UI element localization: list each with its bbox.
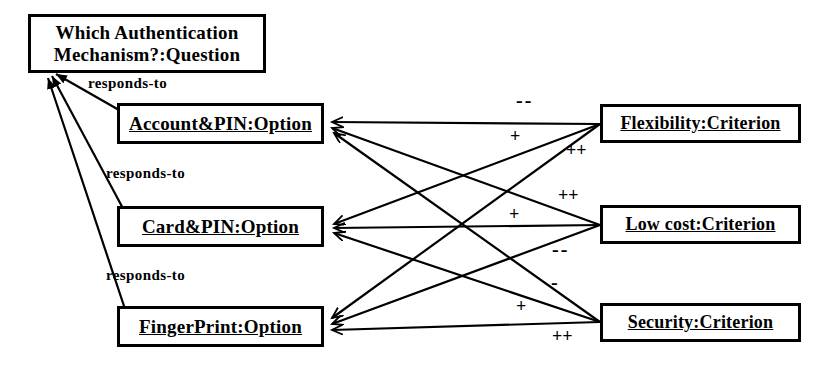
node-criterion-security[interactable]: Security:Criterion <box>600 303 801 342</box>
node-question[interactable]: Which Authentication Mechanism?:Question <box>28 14 266 73</box>
node-criterion-lowcost[interactable]: Low cost:Criterion <box>600 205 801 244</box>
contribution-label-lowcost-to-card: + <box>509 205 519 223</box>
edge-flexibility-to-fingerprint <box>332 124 600 318</box>
contribution-label-lowcost-to-account: ++ <box>558 186 579 204</box>
contribution-label-flex-to-finger: ++ <box>566 141 587 159</box>
edge-flexibility-to-card-pin <box>334 124 600 224</box>
node-option-card-pin[interactable]: Card&PIN:Option <box>117 206 324 247</box>
contribution-edges <box>332 122 600 330</box>
assoc-label-responds-to-2: responds-to <box>106 166 185 181</box>
node-option-fingerprint-label: FingerPrint:Option <box>139 316 302 337</box>
edge-card-pin-to-question <box>52 76 126 214</box>
contribution-label-lowcost-to-finger: -- <box>552 239 569 259</box>
node-option-fingerprint[interactable]: FingerPrint:Option <box>117 306 324 347</box>
node-criterion-flexibility-label: Flexibility:Criterion <box>620 113 780 133</box>
node-criterion-lowcost-label: Low cost:Criterion <box>625 214 775 234</box>
assoc-label-responds-to-3: responds-to <box>106 268 185 283</box>
node-option-card-pin-label: Card&PIN:Option <box>142 216 299 237</box>
contribution-label-security-to-card: + <box>516 297 526 315</box>
assoc-label-responds-to-1: responds-to <box>88 76 167 91</box>
node-question-label-line1: Which Authentication <box>56 22 239 43</box>
node-option-account-pin-label: Account&PIN:Option <box>129 113 312 134</box>
contribution-label-flex-to-account: -- <box>516 90 533 110</box>
node-option-account-pin[interactable]: Account&PIN:Option <box>117 103 324 144</box>
node-question-label-line2: Mechanism?:Question <box>54 44 240 65</box>
contribution-label-flex-to-card: + <box>510 127 520 145</box>
node-criterion-flexibility[interactable]: Flexibility:Criterion <box>600 104 801 143</box>
contribution-label-security-to-account: - <box>551 272 558 292</box>
uml-class-diagram: Which Authentication Mechanism?:Question… <box>0 0 834 369</box>
contribution-label-security-to-finger: ++ <box>552 327 573 345</box>
node-criterion-security-label: Security:Criterion <box>628 312 774 332</box>
edge-flexibility-to-account-pin <box>332 122 600 124</box>
node-question-label: Which Authentication Mechanism?:Question <box>54 22 240 65</box>
